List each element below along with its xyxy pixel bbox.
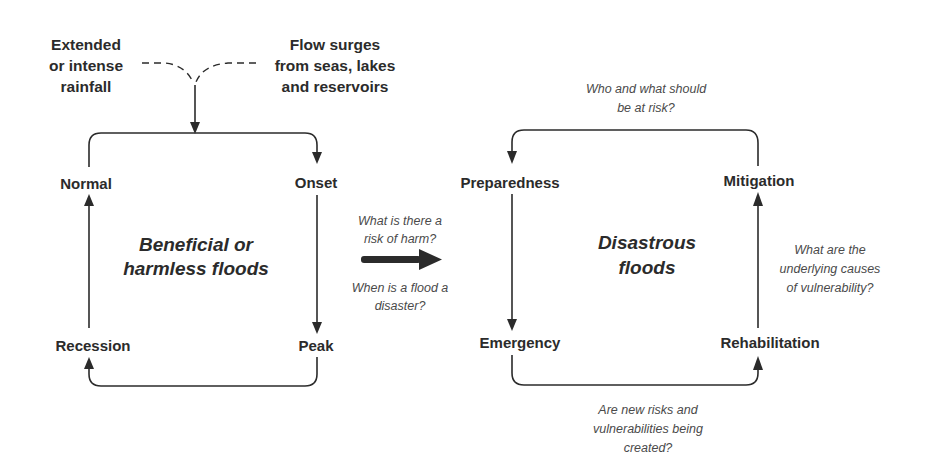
left-cycle-title-line-1: Beneficial or [139, 234, 255, 255]
flood-cycle-diagram: Extended or intense rainfall Flow surges… [0, 0, 939, 467]
node-recession: Recession [55, 337, 130, 354]
question-top-line-2: be at risk? [617, 101, 675, 115]
transition-question-above-line-1: What is there a [358, 214, 442, 228]
question-right-line-3: of vulnerability? [787, 281, 874, 295]
transition-question-above-line-2: risk of harm? [364, 232, 436, 246]
node-peak: Peak [298, 337, 334, 354]
question-right-line-2: underlying causes [780, 262, 881, 276]
right-cycle-title-line-1: Disastrous [598, 232, 696, 253]
input-flow-surges: Flow surges from seas, lakes and reservo… [275, 36, 396, 95]
peak-arrowhead-icon [312, 322, 322, 334]
node-onset: Onset [295, 174, 338, 191]
question-bottom-line-2: vulnerabilities being [593, 422, 703, 436]
mitigation-to-preparedness-connector [512, 130, 758, 166]
transition-arrowhead-icon [419, 249, 442, 270]
input-rainfall-line-2: or intense [49, 57, 123, 74]
left-cycle-title-line-2: harmless floods [123, 258, 269, 279]
onset-arrowhead-icon [312, 152, 322, 164]
preparedness-arrowhead-icon [507, 151, 517, 164]
node-emergency: Emergency [480, 334, 562, 351]
input-surges-line-2: from seas, lakes [275, 57, 396, 74]
right-cycle: Who and what should be at risk? Prepared… [460, 82, 880, 455]
transition-question-below-line-1: When is a flood a [352, 281, 449, 295]
recession-arrowhead-icon [84, 357, 94, 369]
normal-arrowhead-icon [84, 194, 94, 206]
normal-to-onset-connector [89, 133, 317, 167]
rehabilitation-arrowhead-icon [753, 356, 763, 370]
node-preparedness: Preparedness [460, 174, 559, 191]
surges-dashed-connector [196, 63, 256, 82]
peak-to-recession-connector [89, 357, 317, 386]
input-surges-line-1: Flow surges [290, 36, 380, 53]
input-rainfall-line-3: rainfall [61, 78, 112, 95]
question-top-line-1: Who and what should [586, 82, 707, 96]
rainfall-dashed-connector [142, 63, 193, 82]
input-surges-line-3: and reservoirs [282, 78, 389, 95]
emergency-arrowhead-icon [507, 319, 517, 331]
node-normal: Normal [60, 175, 112, 192]
emergency-to-rehabilitation-connector [512, 355, 758, 385]
node-mitigation: Mitigation [724, 172, 795, 189]
right-cycle-title-line-2: floods [619, 257, 676, 278]
node-rehabilitation: Rehabilitation [720, 334, 819, 351]
transition-question-below-line-2: disaster? [375, 299, 426, 313]
transition: What is there a risk of harm? When is a … [352, 214, 449, 313]
transition-arrow-shaft [361, 256, 421, 263]
question-right-line-1: What are the [794, 243, 866, 257]
left-cycle: Normal Onset Peak Recession Beneficial o… [55, 133, 337, 386]
question-bottom-line-3: created? [624, 441, 673, 455]
mitigation-arrowhead-icon [753, 192, 763, 206]
input-rainfall: Extended or intense rainfall [49, 36, 123, 95]
input-rainfall-line-1: Extended [51, 36, 121, 53]
question-bottom-line-1: Are new risks and [597, 403, 698, 417]
